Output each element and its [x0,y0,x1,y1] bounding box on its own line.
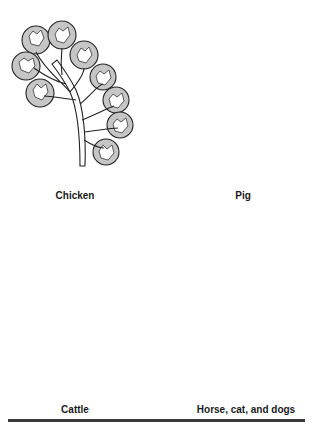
chicken-lobe [107,112,133,138]
cattle-label: Cattle [61,404,89,415]
horse-cat-dogs-label: Horse, cat, and dogs [197,404,295,415]
chicken-lobe [22,26,50,54]
bottom-rule-divider [8,419,305,422]
chicken-lobe [93,139,119,165]
chicken-kidney-illustration [12,21,133,166]
kidney-comparison-diagram [0,0,321,432]
chicken-ureter [52,60,85,166]
chicken-lobe [90,64,116,90]
chicken-lobe [12,52,40,80]
chicken-label: Chicken [56,190,95,201]
pig-label: Pig [235,190,251,201]
chicken-lobe [48,21,76,49]
chicken-lobe [26,79,54,107]
chicken-lobe [70,41,98,69]
